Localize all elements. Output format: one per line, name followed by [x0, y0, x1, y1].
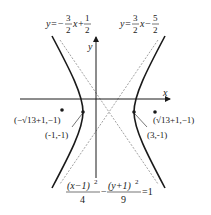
asym2-frac-den: 2	[133, 25, 138, 35]
y-axis-label: y	[87, 41, 93, 52]
hyperbola-diagram: x y y=− 3 2 x+ 1 2 y= 3 2 x− 5 2 (−√13+1…	[0, 0, 211, 215]
vertex-right-dot	[132, 110, 136, 114]
left-branch	[52, 36, 83, 188]
x-axis-label: x	[162, 87, 168, 98]
eq-num-left: (x−1)	[67, 180, 91, 192]
axes	[20, 37, 170, 178]
focus-left-dot	[60, 108, 64, 112]
hyperbola-equation: (x−1) 2 4 − (y+1) 2 9 =1	[66, 178, 153, 205]
asym2-frac2-den: 2	[153, 25, 158, 35]
eq-den-left: 4	[80, 194, 85, 205]
asym2-mid: x−	[139, 18, 151, 29]
asym2-prefix: y=	[119, 18, 131, 29]
asym1-frac-num: 3	[66, 13, 71, 23]
asymptote-label-right: y= 3 2 x− 5 2	[119, 13, 159, 35]
eq-minus: −	[101, 186, 107, 197]
eq-exp-left: 2	[94, 178, 98, 186]
asym1-frac-den: 2	[66, 25, 71, 35]
asym1-mid: x+	[72, 18, 84, 29]
asymptote-label-left: y=− 3 2 x+ 1 2	[45, 13, 91, 35]
vertex-right-label: (3,-1)	[147, 130, 167, 140]
eq-exp-right: 2	[135, 178, 139, 186]
vertex-left-dot	[81, 110, 85, 114]
eq-den-right: 9	[121, 194, 126, 205]
focus-right-label: (√13+1,−1)	[153, 115, 194, 125]
asym2-frac-num: 3	[133, 13, 138, 23]
asymptotes	[60, 40, 158, 184]
asym2-frac2-num: 5	[153, 13, 158, 23]
right-branch	[134, 36, 165, 188]
asym1-prefix: y=−	[45, 18, 64, 29]
focus-right-dot	[153, 110, 157, 114]
asym1-frac2-num: 1	[85, 13, 90, 23]
focus-left-label: (−√13+1,−1)	[14, 115, 60, 125]
asym1-frac2-den: 2	[85, 25, 90, 35]
eq-equals: =1	[142, 186, 153, 197]
vertex-left-label: (-1,-1)	[45, 130, 68, 140]
hyperbola-curve	[52, 36, 165, 188]
eq-num-right: (y+1)	[108, 180, 132, 192]
